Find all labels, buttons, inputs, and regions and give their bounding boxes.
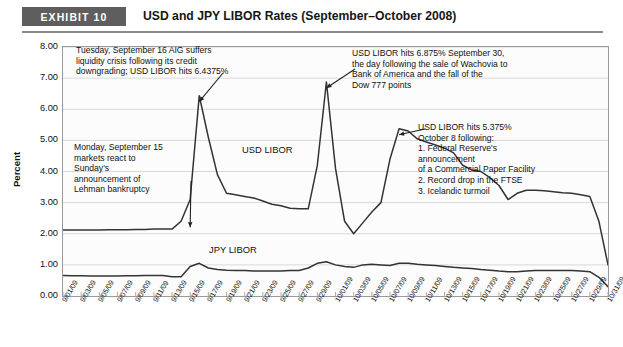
- series-label-jpy-libor: JPY LIBOR: [209, 244, 257, 255]
- y-tick-label: 4.00: [24, 166, 58, 176]
- y-axis-ticks: 0.001.002.003.004.005.006.007.008.00: [20, 36, 58, 296]
- annotation-oct8: USD LIBOR hits 5.375% October 8 followin…: [418, 122, 608, 196]
- y-tick-label: 0.00: [24, 290, 58, 300]
- chart-region: Percent 0.001.002.003.004.005.006.007.00…: [0, 36, 623, 347]
- y-tick-label: 1.00: [24, 259, 58, 269]
- y-tick-label: 7.00: [24, 72, 58, 82]
- exhibit-title: USD and JPY LIBOR Rates (September–Octob…: [143, 9, 456, 23]
- annotation-sept16: Tuesday, September 16 AIG suffers liquid…: [76, 45, 291, 77]
- series-label-usd-libor: USD LIBOR: [242, 144, 293, 155]
- x-axis-ticks: 9/01/099/03/099/05/099/07/099/09/099/11/…: [62, 297, 607, 347]
- annotation-sept15: Monday, September 15 markets react to Su…: [74, 142, 184, 195]
- y-tick-label: 3.00: [24, 197, 58, 207]
- y-tick-label: 6.00: [24, 103, 58, 113]
- exhibit-badge: EXHIBIT 10: [22, 7, 126, 26]
- annotation-leader-9-16-09: [199, 73, 223, 102]
- y-tick-label: 8.00: [24, 41, 58, 51]
- y-tick-label: 5.00: [24, 134, 58, 144]
- exhibit-header: EXHIBIT 10 USD and JPY LIBOR Rates (Sept…: [0, 0, 623, 36]
- y-tick-label: 2.00: [24, 228, 58, 238]
- header-divider: [22, 31, 603, 33]
- annotation-sept30: USD LIBOR hits 6.875% September 30, the …: [352, 48, 592, 90]
